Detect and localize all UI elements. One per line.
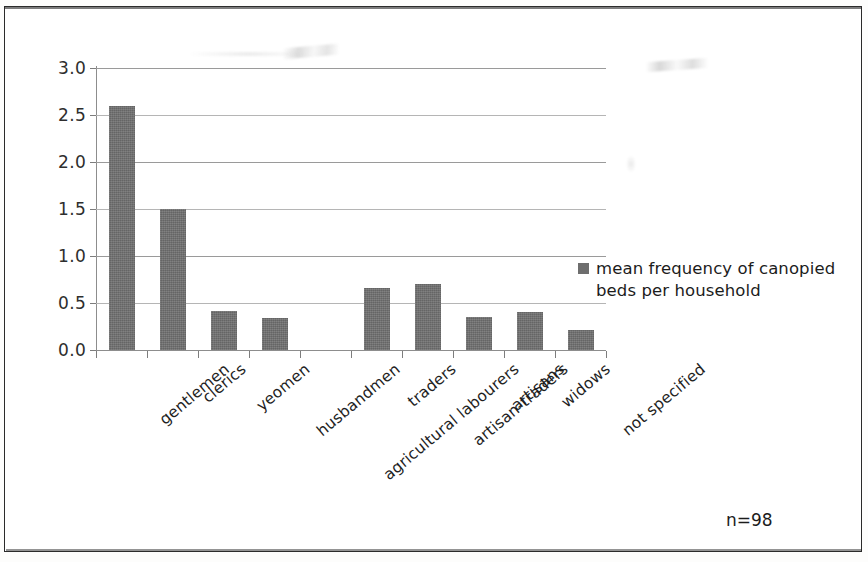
bar [109, 106, 135, 350]
y-axis-tick-label: 0.5 [34, 293, 86, 313]
y-axis-tick-label: 3.0 [34, 58, 86, 78]
bar [262, 318, 288, 350]
gridline [96, 68, 606, 69]
plot-area [96, 68, 606, 350]
y-axis-tick-label: 1.0 [34, 246, 86, 266]
y-axis-tick-label: 0.0 [34, 340, 86, 360]
x-axis-tick [300, 351, 301, 358]
bar [415, 284, 441, 350]
bar [211, 311, 237, 350]
gridline [96, 115, 606, 116]
x-axis-tick [402, 351, 403, 358]
x-axis-tick [147, 351, 148, 358]
gridline [96, 162, 606, 163]
bar [364, 288, 390, 350]
legend-entry: mean frequency of canopiedbeds per house… [578, 258, 856, 302]
frame-bottom-edge [6, 549, 862, 551]
y-axis-tick-label: 1.5 [34, 199, 86, 219]
x-axis-tick [453, 351, 454, 358]
legend-label: mean frequency of canopiedbeds per house… [596, 258, 835, 302]
x-axis-tick [606, 351, 607, 358]
y-axis-tick [90, 115, 96, 116]
bar [160, 209, 186, 350]
bar [568, 330, 594, 350]
x-axis-tick [555, 351, 556, 358]
y-axis-tick [90, 256, 96, 257]
legend-label-line2: beds per household [596, 281, 761, 300]
chart-legend: mean frequency of canopiedbeds per house… [578, 258, 856, 302]
x-axis-tick [198, 351, 199, 358]
bar [466, 317, 492, 350]
x-axis-tick [96, 351, 97, 358]
y-axis-labels: 0.00.51.01.52.02.53.0 [30, 0, 86, 562]
x-axis-tick [351, 351, 352, 358]
y-axis-tick-label: 2.5 [34, 105, 86, 125]
y-axis-tick [90, 303, 96, 304]
legend-swatch-icon [578, 263, 589, 274]
y-axis-tick [90, 162, 96, 163]
y-axis-tick-label: 2.0 [34, 152, 86, 172]
chart-figure: 0.00.51.01.52.02.53.0 gentlemenclericsye… [0, 0, 868, 562]
y-axis-tick [90, 209, 96, 210]
frame-top-edge [5, 7, 861, 9]
sample-size-annotation: n=98 [726, 510, 773, 530]
x-axis-tick [504, 351, 505, 358]
y-axis-tick [90, 68, 96, 69]
bar [517, 312, 543, 350]
legend-label-line1: mean frequency of canopied [596, 259, 835, 278]
x-axis-tick [249, 351, 250, 358]
